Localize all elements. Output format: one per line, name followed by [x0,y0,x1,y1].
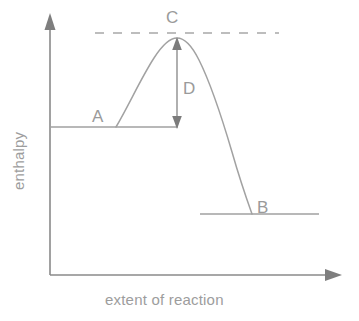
right-arrow-icon [325,269,342,281]
energy-profile-curve [116,38,252,214]
label-activation-energy-D: D [183,79,196,98]
y-axis [45,13,56,275]
x-axis-label: extent of reaction [105,291,224,308]
x-axis [50,269,342,281]
activation-energy-measure [172,37,182,129]
enthalpy-reaction-profile-figure: A B C D enthalpy extent of reaction [0,0,359,321]
reaction-profile-chart: A B C D enthalpy extent of reaction [0,0,359,321]
up-arrow-icon [45,13,56,30]
label-reactants-A: A [92,107,104,126]
label-transition-state-C: C [166,8,179,27]
y-axis-label: enthalpy [10,131,27,190]
label-products-B: B [257,198,269,217]
